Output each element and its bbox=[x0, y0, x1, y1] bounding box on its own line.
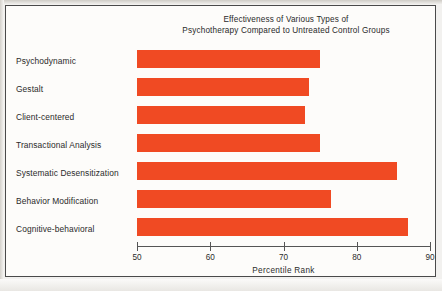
category-label-systematic-desensitization: Systematic Desensitization bbox=[16, 168, 136, 178]
scan-edge-left bbox=[0, 0, 4, 291]
bar-psychodynamic bbox=[137, 50, 320, 68]
category-label-gestalt: Gestalt bbox=[16, 84, 136, 94]
x-tick-label-50: 50 bbox=[125, 253, 149, 262]
bar-client-centered bbox=[137, 106, 305, 124]
x-tick-90 bbox=[430, 242, 431, 251]
bar-gestalt bbox=[137, 78, 309, 96]
x-tick-60 bbox=[210, 242, 211, 251]
chart-screenshot: Effectiveness of Various Types of Psycho… bbox=[0, 0, 442, 291]
category-label-behavior-modification: Behavior Modification bbox=[16, 196, 136, 206]
bar-cognitive-behavioral bbox=[137, 218, 408, 236]
category-label-psychodynamic: Psychodynamic bbox=[16, 56, 136, 66]
category-label-client-centered: Client-centered bbox=[16, 112, 136, 122]
x-axis-title: Percentile Rank bbox=[137, 266, 430, 275]
x-tick-80 bbox=[357, 242, 358, 251]
category-label-cognitive-behavioral: Cognitive-behavioral bbox=[16, 224, 136, 234]
scan-edge-bottom bbox=[0, 279, 442, 291]
bar-systematic-desensitization bbox=[137, 162, 397, 180]
x-tick-70 bbox=[284, 242, 285, 251]
x-tick-label-60: 60 bbox=[198, 253, 222, 262]
bar-behavior-modification bbox=[137, 190, 331, 208]
category-label-transactional-analysis: Transactional Analysis bbox=[16, 140, 136, 150]
x-tick-label-80: 80 bbox=[345, 253, 369, 262]
x-tick-label-70: 70 bbox=[272, 253, 296, 262]
x-tick-label-90: 90 bbox=[418, 253, 442, 262]
plot-area: Psychodynamic Gestalt Client-centered Tr… bbox=[6, 6, 435, 276]
figure-frame: Effectiveness of Various Types of Psycho… bbox=[5, 5, 436, 277]
x-tick-50 bbox=[137, 242, 138, 251]
bar-transactional-analysis bbox=[137, 134, 320, 152]
